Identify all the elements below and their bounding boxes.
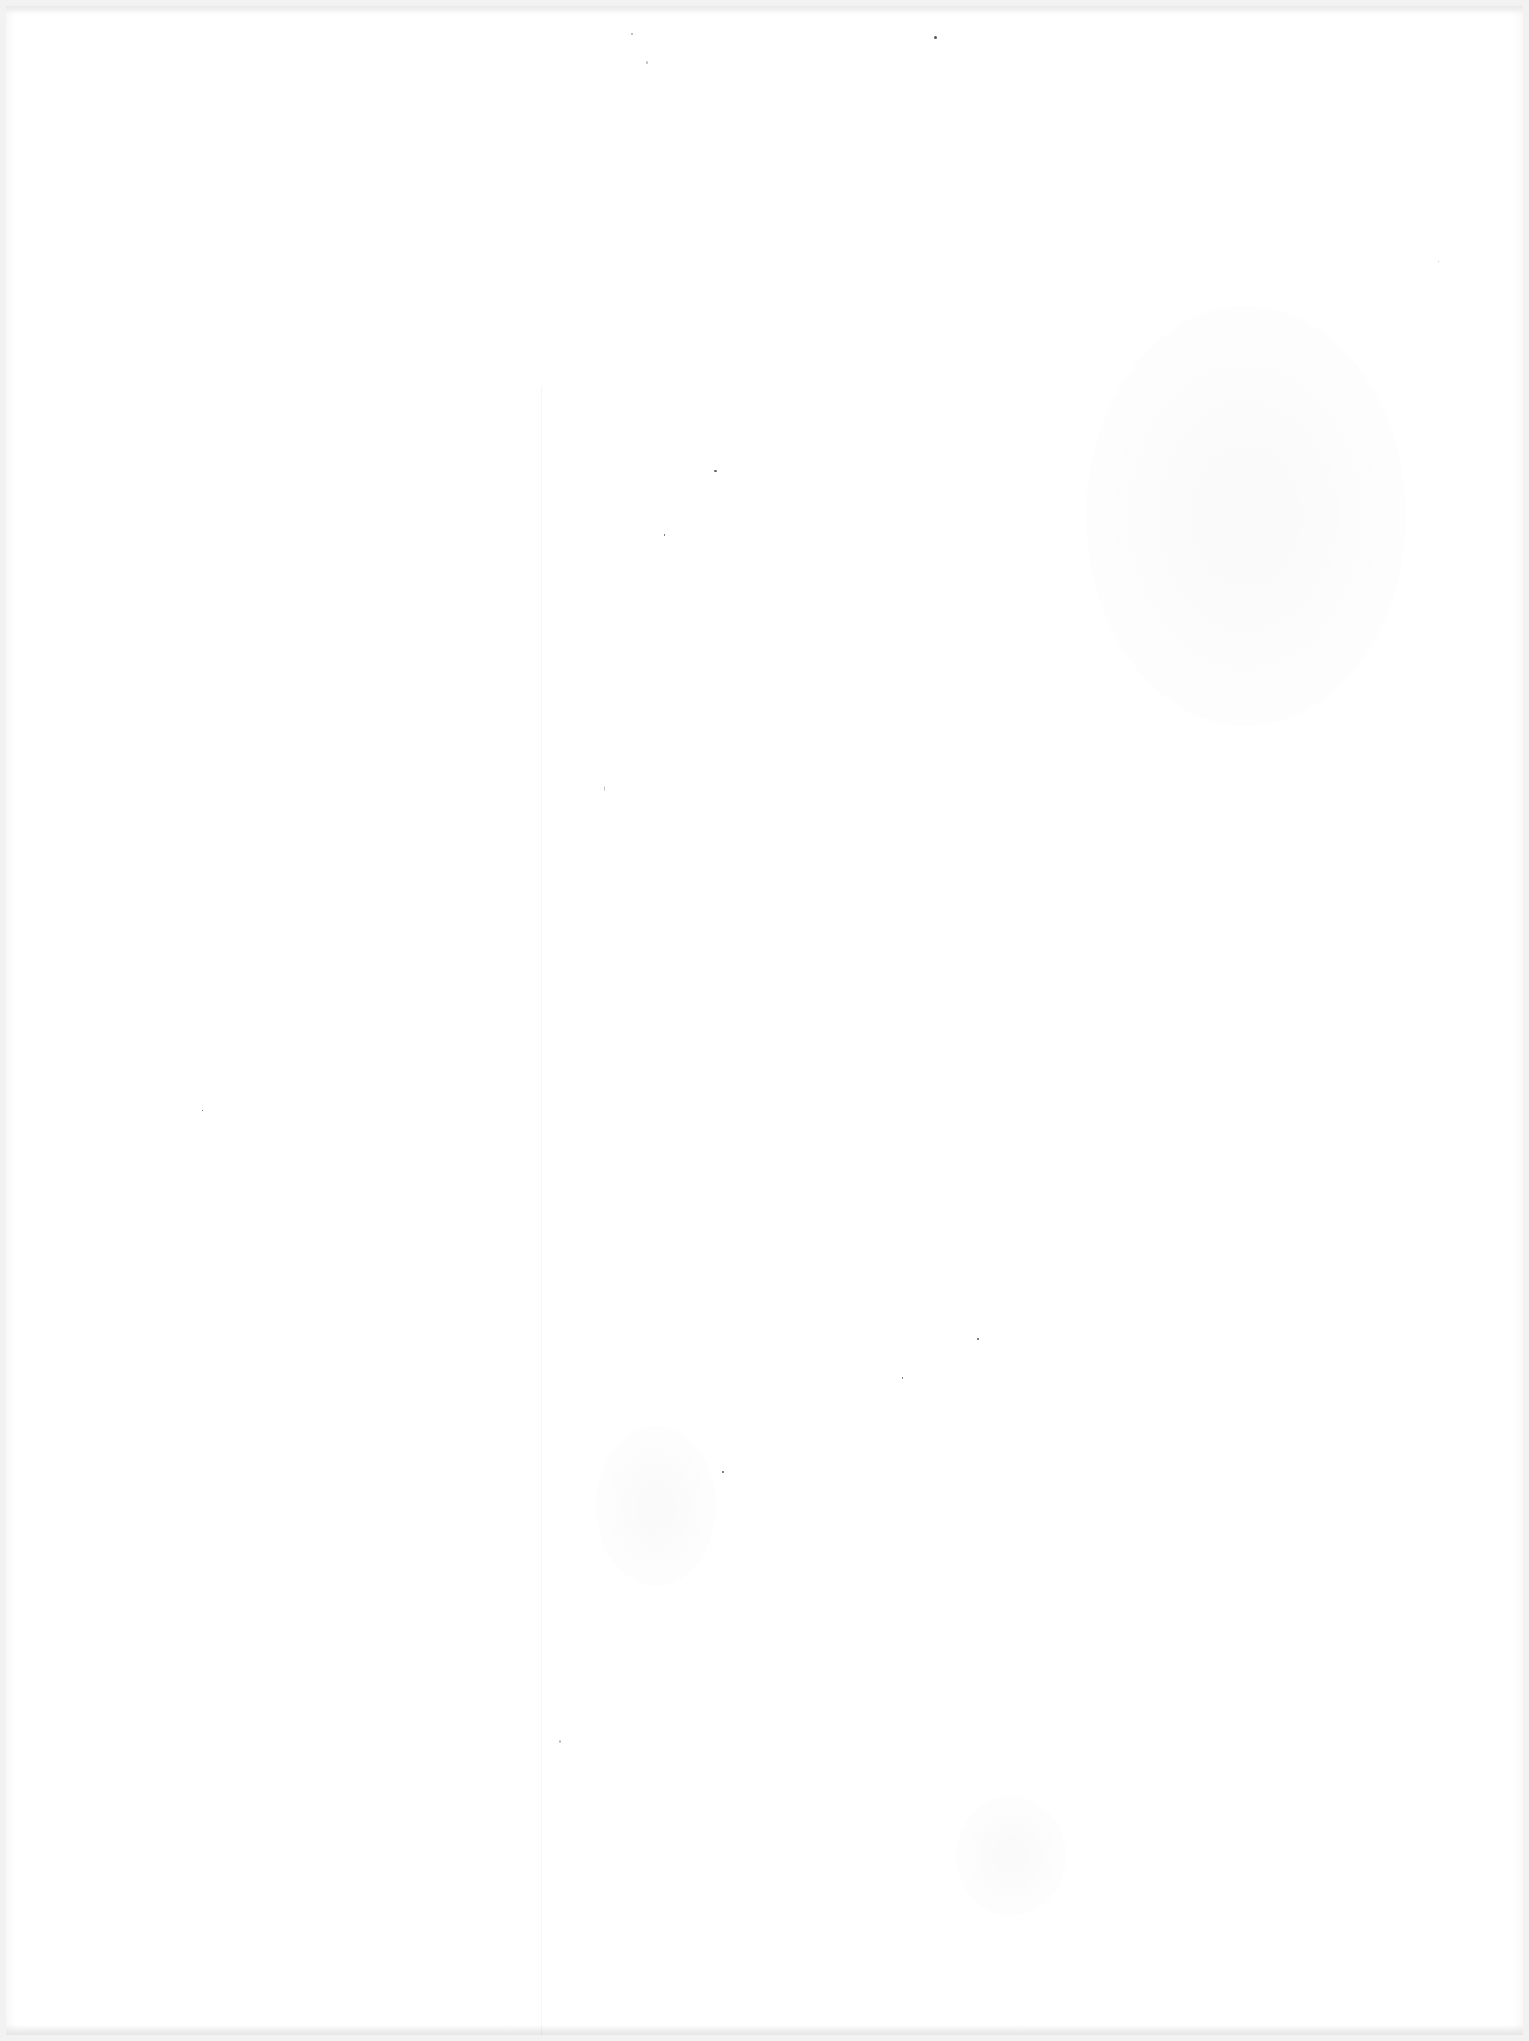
scan-speck xyxy=(902,1377,903,1379)
scan-speck xyxy=(631,33,633,35)
scan-speck xyxy=(604,786,605,791)
blank-document-page xyxy=(6,6,1523,2035)
scan-bottom-edge-shadow xyxy=(6,2025,1523,2035)
scan-speck xyxy=(559,1740,561,1743)
scan-speck xyxy=(722,1471,724,1473)
scan-speck xyxy=(1438,261,1439,262)
paper-fold-line xyxy=(541,386,542,2036)
bleed-through-smudge xyxy=(1086,306,1406,726)
scan-speck xyxy=(934,36,937,39)
scan-speck xyxy=(977,1338,979,1340)
scan-speck xyxy=(202,1110,203,1111)
bleed-through-smudge xyxy=(956,1796,1066,1916)
bleed-through-smudge xyxy=(596,1426,716,1586)
scan-speck xyxy=(664,534,665,536)
scan-speck xyxy=(714,470,717,472)
scan-top-edge-shadow xyxy=(6,6,1523,14)
scan-speck xyxy=(646,61,648,64)
